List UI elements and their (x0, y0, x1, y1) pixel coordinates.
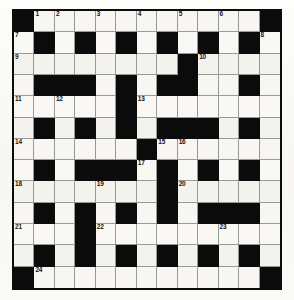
letter-cell[interactable] (137, 118, 157, 139)
letter-cell[interactable] (75, 54, 95, 75)
letter-cell[interactable] (96, 96, 116, 117)
letter-cell[interactable] (260, 54, 280, 75)
letter-cell[interactable] (96, 54, 116, 75)
letter-cell[interactable] (157, 267, 177, 288)
letter-cell[interactable] (219, 139, 239, 160)
letter-cell[interactable]: 5 (178, 11, 198, 32)
letter-cell[interactable]: 15 (157, 139, 177, 160)
letter-cell[interactable]: 20 (178, 181, 198, 202)
letter-cell[interactable] (55, 118, 75, 139)
letter-cell[interactable] (75, 96, 95, 117)
letter-cell[interactable] (75, 139, 95, 160)
letter-cell[interactable] (219, 75, 239, 96)
letter-cell[interactable] (137, 224, 157, 245)
letter-cell[interactable] (260, 224, 280, 245)
letter-cell[interactable]: 7 (14, 32, 34, 53)
letter-cell[interactable] (219, 267, 239, 288)
letter-cell[interactable] (239, 181, 259, 202)
letter-cell[interactable] (260, 245, 280, 266)
letter-cell[interactable] (75, 181, 95, 202)
letter-cell[interactable]: 10 (198, 54, 218, 75)
letter-cell[interactable] (34, 181, 54, 202)
letter-cell[interactable] (239, 11, 259, 32)
letter-cell[interactable] (198, 139, 218, 160)
letter-cell[interactable] (55, 245, 75, 266)
letter-cell[interactable] (260, 118, 280, 139)
letter-cell[interactable] (55, 54, 75, 75)
letter-cell[interactable]: 17 (137, 160, 157, 181)
letter-cell[interactable] (219, 32, 239, 53)
letter-cell[interactable] (116, 11, 136, 32)
letter-cell[interactable] (137, 267, 157, 288)
letter-cell[interactable] (116, 224, 136, 245)
letter-cell[interactable] (137, 203, 157, 224)
letter-cell[interactable] (137, 32, 157, 53)
letter-cell[interactable] (116, 139, 136, 160)
letter-cell[interactable] (219, 160, 239, 181)
letter-cell[interactable] (116, 267, 136, 288)
letter-cell[interactable] (157, 11, 177, 32)
letter-cell[interactable] (14, 118, 34, 139)
letter-cell[interactable] (260, 96, 280, 117)
letter-cell[interactable] (34, 54, 54, 75)
letter-cell[interactable]: 2 (55, 11, 75, 32)
crossword-grid[interactable]: 123456789101112131415161718192021222324 (14, 11, 280, 288)
letter-cell[interactable] (219, 181, 239, 202)
letter-cell[interactable] (260, 75, 280, 96)
letter-cell[interactable]: 6 (219, 11, 239, 32)
letter-cell[interactable] (137, 181, 157, 202)
letter-cell[interactable] (178, 245, 198, 266)
letter-cell[interactable] (178, 267, 198, 288)
letter-cell[interactable] (198, 267, 218, 288)
letter-cell[interactable] (260, 203, 280, 224)
letter-cell[interactable] (96, 75, 116, 96)
letter-cell[interactable] (34, 96, 54, 117)
letter-cell[interactable] (198, 11, 218, 32)
letter-cell[interactable] (239, 139, 259, 160)
letter-cell[interactable] (75, 267, 95, 288)
letter-cell[interactable]: 19 (96, 181, 116, 202)
letter-cell[interactable] (55, 32, 75, 53)
letter-cell[interactable] (239, 96, 259, 117)
letter-cell[interactable]: 12 (55, 96, 75, 117)
letter-cell[interactable] (157, 96, 177, 117)
letter-cell[interactable] (178, 32, 198, 53)
letter-cell[interactable] (55, 181, 75, 202)
letter-cell[interactable]: 18 (14, 181, 34, 202)
letter-cell[interactable] (178, 96, 198, 117)
letter-cell[interactable] (14, 203, 34, 224)
letter-cell[interactable] (137, 245, 157, 266)
letter-cell[interactable]: 22 (96, 224, 116, 245)
letter-cell[interactable] (96, 245, 116, 266)
letter-cell[interactable]: 16 (178, 139, 198, 160)
letter-cell[interactable] (14, 245, 34, 266)
letter-cell[interactable]: 21 (14, 224, 34, 245)
letter-cell[interactable] (116, 181, 136, 202)
letter-cell[interactable]: 9 (14, 54, 34, 75)
letter-cell[interactable] (260, 181, 280, 202)
letter-cell[interactable] (178, 203, 198, 224)
letter-cell[interactable] (137, 54, 157, 75)
letter-cell[interactable]: 23 (219, 224, 239, 245)
letter-cell[interactable] (219, 118, 239, 139)
letter-cell[interactable] (116, 54, 136, 75)
letter-cell[interactable]: 8 (260, 32, 280, 53)
letter-cell[interactable]: 11 (14, 96, 34, 117)
letter-cell[interactable] (198, 224, 218, 245)
letter-cell[interactable] (55, 160, 75, 181)
letter-cell[interactable] (14, 75, 34, 96)
letter-cell[interactable] (14, 160, 34, 181)
letter-cell[interactable]: 24 (34, 267, 54, 288)
letter-cell[interactable] (219, 245, 239, 266)
letter-cell[interactable] (96, 32, 116, 53)
letter-cell[interactable] (178, 160, 198, 181)
letter-cell[interactable] (219, 54, 239, 75)
letter-cell[interactable] (219, 96, 239, 117)
letter-cell[interactable] (239, 54, 259, 75)
letter-cell[interactable] (55, 267, 75, 288)
letter-cell[interactable] (198, 75, 218, 96)
letter-cell[interactable] (198, 181, 218, 202)
letter-cell[interactable] (55, 203, 75, 224)
letter-cell[interactable]: 14 (14, 139, 34, 160)
letter-cell[interactable] (239, 224, 259, 245)
